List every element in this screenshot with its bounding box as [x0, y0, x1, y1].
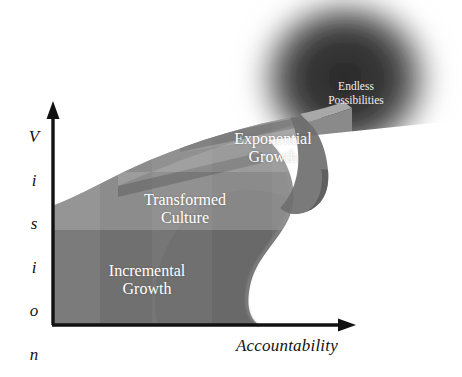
diagram-canvas: V i s i o n Accountability Incremental G… — [0, 0, 462, 377]
y-axis-label: V i s i o n — [24, 101, 44, 377]
y-axis-letter-4: i — [24, 261, 44, 276]
y-axis-letter-1: V — [24, 130, 44, 145]
y-axis-arrowhead — [47, 101, 60, 119]
y-axis-letter-3: s — [24, 217, 44, 232]
x-axis-label: Accountability — [236, 336, 338, 356]
cloud-label-endless-possibilities: Endless Possibilities — [296, 80, 416, 107]
y-axis-letter-2: i — [24, 174, 44, 189]
step-label-incremental-growth: Incremental Growth — [72, 262, 222, 298]
y-axis-letter-5: o — [24, 304, 44, 319]
step-label-exponential-growth: Exponential Growth — [198, 130, 348, 166]
y-axis-letter-6: n — [24, 348, 44, 363]
staircase-diagram-graphic — [0, 0, 462, 377]
step-label-transformed-culture: Transformed Culture — [110, 191, 260, 227]
